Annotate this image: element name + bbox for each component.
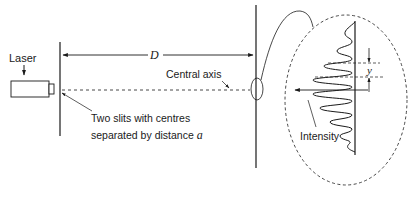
intensity-pointer (308, 100, 316, 127)
double-slit-diagram: Laser D Central axis Two slits with cent… (0, 0, 412, 200)
central-axis-pointer (222, 81, 229, 88)
laser: Laser (9, 52, 54, 97)
slits-label-line2: separated by distance a (91, 128, 203, 142)
zoom-region-marker (251, 78, 263, 100)
magnified-view-outline (285, 15, 407, 185)
fringe-spacing-markers: y (315, 48, 383, 92)
distance-d-label: D (149, 48, 159, 62)
laser-body (11, 81, 49, 97)
zoom-connector-curve (261, 11, 313, 80)
intensity-label: Intensity (300, 130, 340, 142)
distance-d-arrow: D (63, 48, 253, 62)
slits-label: Two slits with centres separated by dist… (62, 93, 203, 142)
laser-label: Laser (9, 52, 37, 64)
fringe-spacing-label: y (366, 64, 372, 76)
slits-pointer (62, 93, 92, 111)
slits-label-line1: Two slits with centres (91, 112, 190, 124)
central-axis-label: Central axis (166, 68, 221, 80)
laser-nozzle (49, 84, 54, 94)
